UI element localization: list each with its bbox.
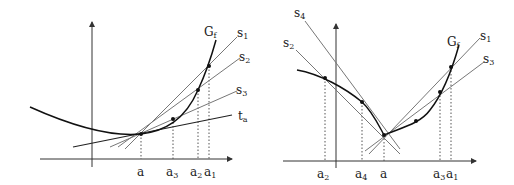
left-s2-label: s2 (239, 50, 250, 65)
left-s1-label: s1 (237, 26, 248, 41)
right-x-label-a: a (380, 167, 387, 181)
left-ta-label: ta (238, 109, 248, 124)
right-s2-label: s2 (283, 36, 294, 51)
left-guides (141, 66, 209, 159)
left-s3-label: s3 (236, 83, 247, 98)
right-s4-label: s4 (294, 6, 305, 21)
left-diagram: Gf s1 s2 s3 ta a a3 a2 a1 (30, 22, 250, 180)
right-guides (325, 67, 451, 161)
left-secants (110, 37, 240, 149)
right-x-label-a1: a1 (446, 167, 458, 182)
right-s1-label: s1 (480, 29, 491, 44)
secant-tangent-diagrams: Gf s1 s2 s3 ta a a3 a2 a1 (0, 0, 514, 185)
left-x-label-a1: a1 (204, 165, 216, 180)
left-x-label-a: a (137, 165, 144, 179)
diagram-stage: Gf s1 s2 s3 ta a a3 a2 a1 (0, 0, 514, 185)
right-diagram: Gf s4 s2 s1 s3 a2 a4 a a3 a1 (283, 6, 494, 182)
secant-s4 (305, 21, 400, 149)
right-x-label-a3: a3 (433, 167, 445, 182)
left-curve-gf (30, 40, 216, 134)
right-gf-label: Gf (447, 35, 461, 50)
right-x-label-a4: a4 (355, 167, 367, 182)
left-gf-label: Gf (204, 25, 218, 40)
right-points (323, 65, 453, 137)
left-points (139, 64, 211, 136)
secant-s3 (365, 62, 484, 151)
secant-s1 (369, 38, 480, 154)
left-x-label-a3: a3 (166, 165, 178, 180)
left-x-label-a2: a2 (190, 165, 202, 180)
right-curve-gf (297, 45, 459, 135)
right-s3-label: s3 (483, 52, 494, 67)
right-x-label-a2: a2 (317, 167, 329, 182)
